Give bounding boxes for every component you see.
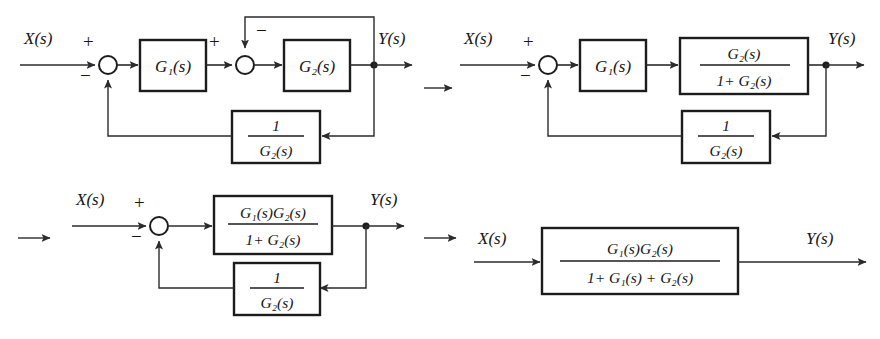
diagram-1-inner-minus-sign: −: [256, 20, 267, 41]
diagram-3-output-label: Y(s): [370, 190, 398, 209]
block-diagram-figure: X(s) + − G₁(s) + − G₂(s) Y(s): [0, 0, 880, 339]
diagram-2-input-label: X(s): [463, 29, 493, 48]
diagram-3-forward-path-merged-diagram: X(s) + − G₁(s)G₂(s) 1+ G₂(s) Y(s) 1 G₂(s…: [72, 190, 404, 315]
diagram-3-block-numerator: G₁(s)G₂(s): [240, 204, 306, 222]
diagram-4-block-numerator: G₁(s)G₂(s): [607, 240, 673, 258]
diagram-1-inverse-g2-denominator: G₂(s): [260, 142, 293, 160]
diagram-2-block2-numerator: G₂(s): [728, 45, 761, 63]
diagram-4-output-label: Y(s): [806, 229, 834, 248]
diagram-1-block-g1-label: G₁(s): [155, 57, 191, 76]
diagram-2-inverse-g2-denominator: G₂(s): [710, 142, 743, 160]
diagram-3-minus-sign: −: [131, 226, 142, 247]
diagram-4-final-transfer-function-diagram: X(s) G₁(s)G₂(s) 1+ G₁(s) + G₂(s) Y(s): [474, 228, 866, 294]
diagram-1-inverse-g2-numerator: 1: [272, 117, 280, 134]
diagram-1-outer-plus-sign: +: [83, 31, 94, 52]
figure-canvas: X(s) + − G₁(s) + − G₂(s) Y(s): [0, 0, 880, 339]
diagram-2-inverse-g2-numerator: 1: [722, 117, 730, 134]
diagram-1-inner-plus-sign: +: [209, 31, 220, 52]
diagram-2-minus-sign: −: [520, 65, 531, 86]
diagram-4-block-denominator: 1+ G₁(s) + G₂(s): [587, 269, 693, 287]
diagram-1-block-g2-label: G₂(s): [299, 57, 335, 76]
diagram-3-block-denominator: 1+ G₂(s): [245, 231, 300, 249]
diagram-1-output-label: Y(s): [378, 29, 406, 48]
diagram-1-outer-minus-sign: −: [80, 65, 91, 86]
diagram-3-plus-sign: +: [134, 192, 145, 213]
diagram-2-summing-junction: [539, 56, 557, 74]
diagram-3-input-label: X(s): [75, 190, 105, 209]
diagram-1-inner-summing-junction: [236, 56, 254, 74]
diagram-2-output-label: Y(s): [828, 29, 856, 48]
diagram-3-inverse-g2-denominator: G₂(s): [261, 294, 294, 312]
diagram-1-input-label: X(s): [23, 29, 53, 48]
diagram-4-input-label: X(s): [477, 229, 507, 248]
diagram-3-summing-junction: [150, 217, 168, 235]
diagram-1-original-block-diagram: X(s) + − G₁(s) + − G₂(s) Y(s): [20, 17, 412, 163]
diagram-2-inner-loop-collapsed-diagram: X(s) + − G₁(s) G₂(s) 1+ G₂(s) Y(s) 1 G₂(…: [460, 29, 864, 163]
diagram-2-block2-denominator: 1+ G₂(s): [716, 72, 771, 90]
diagram-2-plus-sign: +: [523, 31, 534, 52]
diagram-2-block-g1-label: G₁(s): [595, 57, 631, 76]
diagram-1-outer-summing-junction: [99, 56, 117, 74]
diagram-3-inverse-g2-numerator: 1: [273, 269, 281, 286]
